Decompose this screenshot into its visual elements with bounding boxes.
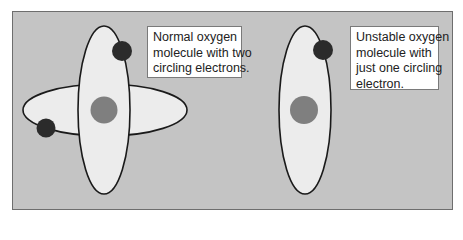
unstable-molecule-label: Unstable oxygen molecule with just one c…: [350, 26, 439, 90]
normal-molecule-label: Normal oxygen molecule with two circling…: [147, 26, 242, 78]
label-line: molecule with two: [153, 46, 237, 62]
electron-left: [37, 119, 56, 138]
nucleus: [91, 97, 118, 124]
label-line: Unstable oxygen: [356, 30, 434, 46]
label-line: circling electrons.: [153, 61, 237, 77]
label-line: just one circling: [356, 61, 434, 77]
label-line: molecule with: [356, 46, 434, 62]
electron-top: [112, 41, 132, 61]
label-line: electron.: [356, 77, 434, 93]
unstable-oxygen-molecule: [279, 26, 333, 194]
electron-top: [313, 40, 333, 60]
label-line: Normal oxygen: [153, 30, 237, 46]
nucleus: [290, 96, 318, 124]
